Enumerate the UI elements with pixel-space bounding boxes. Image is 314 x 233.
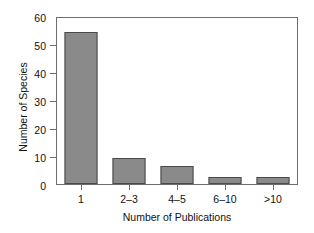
bar-slot-4 — [201, 18, 249, 184]
bar-gt-10[interactable] — [257, 177, 290, 184]
y-axis-title: Number of Species — [17, 32, 29, 182]
x-tick-mark-4-5 — [177, 185, 178, 190]
y-tick-label-60: 60 — [6, 13, 46, 24]
bar-slot-3 — [153, 18, 201, 184]
x-tick-label-gt-10: >10 — [243, 193, 303, 205]
bar-slot-1 — [57, 18, 105, 184]
x-tick-mark-gt-10 — [273, 185, 274, 190]
bar-slot-5 — [249, 18, 297, 184]
x-tick-mark-1 — [81, 185, 82, 190]
x-tick-mark-2-3 — [129, 185, 130, 190]
y-tick-label-0: 0 — [6, 181, 46, 192]
x-axis-title: Number of Publications — [56, 211, 298, 223]
bar-4-5[interactable] — [161, 166, 194, 184]
bar-2-3[interactable] — [113, 158, 146, 184]
bars-layer — [57, 18, 297, 184]
x-tick-mark-6-10 — [225, 185, 226, 190]
chart-page: 60 50 40 30 20 10 0 Number of Species — [0, 0, 314, 233]
bar-6-10[interactable] — [209, 177, 242, 184]
bar-slot-2 — [105, 18, 153, 184]
bar-1[interactable] — [65, 32, 98, 184]
